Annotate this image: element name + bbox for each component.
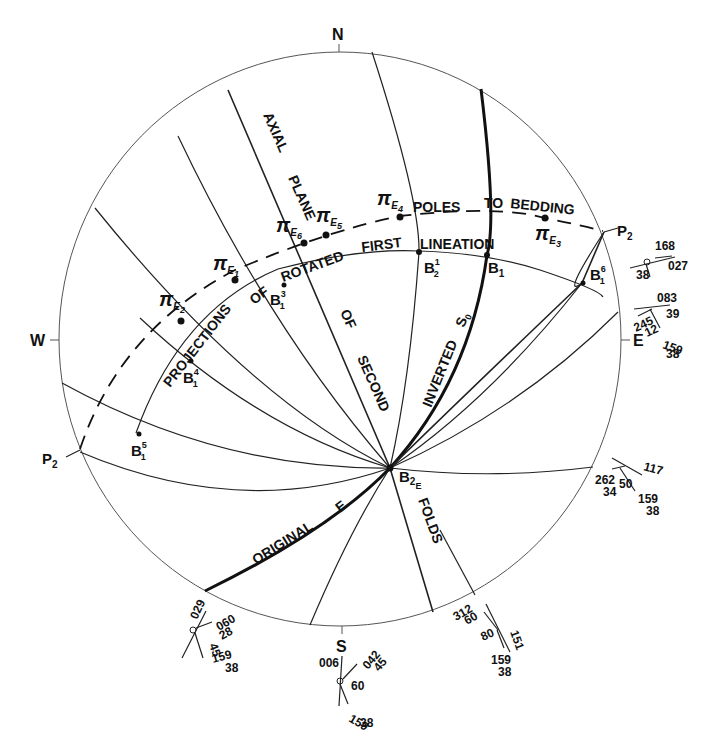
p2-right-arrow — [604, 228, 618, 232]
field-symbol-sse: 312 60 80 151 159 38 — [451, 601, 528, 679]
svg-text:38: 38 — [498, 665, 512, 679]
svg-text:38: 38 — [666, 347, 680, 361]
svg-text:38: 38 — [360, 716, 374, 730]
axial-label: AXIAL — [260, 110, 292, 155]
great-circles — [62, 52, 618, 625]
east-label: E — [633, 332, 644, 349]
original-label: ORIGINAL — [249, 517, 316, 567]
svg-text:38: 38 — [636, 268, 650, 282]
field-symbol-south: 006 042 45 60 159 38 — [319, 647, 390, 733]
svg-text:027: 027 — [668, 259, 688, 273]
b1-6-label: B61 — [590, 264, 606, 286]
p2-left-arrow — [66, 450, 80, 457]
to-label: TO — [484, 195, 503, 211]
p2-right-label: P2 — [617, 222, 633, 242]
first-label: FIRST — [360, 234, 403, 255]
p2-left-label: P2 — [42, 450, 58, 470]
field-symbol-ene: 168 38 027 — [630, 239, 688, 282]
svg-text:117: 117 — [642, 459, 665, 478]
svg-text:38: 38 — [646, 504, 660, 518]
of-label: OF — [337, 307, 360, 332]
pi-e4-label: πE4 — [377, 187, 403, 214]
south-label: S — [336, 638, 347, 655]
pi-e5-label: πE5 — [316, 204, 343, 231]
b1-5-label: B51 — [131, 440, 147, 462]
field-symbol-east: 083 39 245 12 159 38 — [631, 291, 685, 361]
svg-text:168: 168 — [655, 239, 675, 253]
plane-label: PLANE — [285, 173, 319, 223]
poles-to-bedding-dashed-arc — [80, 211, 603, 449]
b1-label: B1 — [488, 259, 505, 279]
west-label: W — [30, 332, 46, 349]
stereonet-diagram: N S W E — [0, 0, 713, 755]
pi-e6-label: πE6 — [276, 214, 303, 241]
north-label: N — [332, 26, 344, 43]
field-symbol-ese: 117 262 34 50 159 38 — [595, 458, 665, 518]
of2-label: OF — [246, 283, 271, 308]
poles-label: POLES — [413, 199, 460, 215]
svg-text:80: 80 — [478, 625, 496, 643]
svg-text:151: 151 — [507, 628, 527, 652]
svg-text:029: 029 — [187, 597, 208, 621]
svg-text:50: 50 — [619, 477, 633, 491]
folds-label: FOLDS — [415, 496, 446, 546]
pi-e3-label: πE3 — [535, 222, 561, 249]
lineation-label: LINEATION — [420, 236, 494, 252]
rotated-label: ROTATED — [279, 247, 346, 284]
b1-3-label: B31 — [270, 289, 286, 311]
bedding-label: BEDDING — [510, 195, 576, 218]
field-symbol-ssw: 029 060 28 45 159 38 — [182, 597, 239, 675]
svg-text:083: 083 — [657, 291, 677, 305]
b2-1-label: B12 — [424, 257, 440, 279]
svg-text:60: 60 — [351, 679, 365, 693]
svg-text:39: 39 — [666, 307, 680, 321]
svg-text:34: 34 — [603, 485, 617, 499]
second-label: SECOND — [354, 353, 393, 414]
svg-text:38: 38 — [225, 661, 239, 675]
svg-text:006: 006 — [319, 656, 339, 670]
